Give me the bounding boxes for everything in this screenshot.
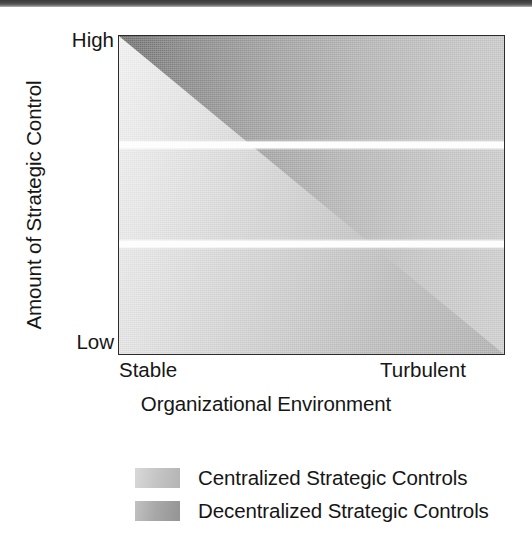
plot-area [118,35,505,355]
strategic-control-chart-figure: Amount of Strategic Control High Low Sta… [0,0,532,559]
legend-swatch-centralized-icon [135,468,180,488]
chart-legend: Centralized Strategic Controls Decentral… [135,461,525,527]
legend-item-decentralized: Decentralized Strategic Controls [135,494,525,527]
y-axis-tick-low: Low [44,330,114,354]
y-axis-title: Amount of Strategic Control [17,40,51,370]
x-axis-title: Organizational Environment [0,391,532,417]
x-axis-tick-turbulent: Turbulent [380,358,466,382]
legend-swatch-decentralized-icon [135,501,180,521]
divider-band-upper [119,142,504,148]
legend-label-centralized: Centralized Strategic Controls [198,465,467,491]
x-axis-tick-stable: Stable [119,358,177,382]
legend-label-decentralized: Decentralized Strategic Controls [198,498,489,524]
divider-band-lower [119,241,504,247]
y-axis-tick-high: High [44,28,114,52]
legend-item-centralized: Centralized Strategic Controls [135,461,525,494]
